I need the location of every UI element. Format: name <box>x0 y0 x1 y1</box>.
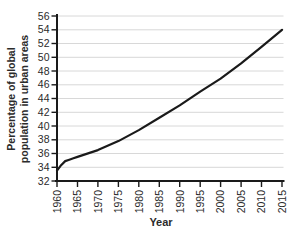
y-tick-label: 42 <box>38 106 50 118</box>
y-tick-label: 32 <box>38 175 50 187</box>
y-tick-label: 48 <box>38 65 50 77</box>
y-tick-label: 44 <box>38 92 50 104</box>
x-tick-label: 1975 <box>112 190 124 214</box>
y-tick-label: 50 <box>38 51 50 63</box>
x-tick-label: 1980 <box>133 190 145 214</box>
y-tick-label: 38 <box>38 133 50 145</box>
x-tick-label: 1970 <box>92 190 104 214</box>
urbanization-line-chart: 3234363840424446485052545619601965197019… <box>0 0 287 235</box>
x-tick-label: 1990 <box>174 190 186 214</box>
data-line <box>57 30 282 171</box>
x-tick-label: 2015 <box>276 190 287 214</box>
x-tick-label: 1960 <box>51 190 63 214</box>
y-tick-label: 56 <box>38 10 50 22</box>
y-tick-label: 46 <box>38 78 50 90</box>
y-tick-label: 36 <box>38 147 50 159</box>
x-axis-title: Year <box>46 216 276 228</box>
y-tick-label: 52 <box>38 37 50 49</box>
x-tick-label: 2000 <box>214 190 226 214</box>
y-tick-label: 34 <box>38 161 50 173</box>
x-tick-label: 2005 <box>235 190 247 214</box>
x-tick-label: 1965 <box>71 190 83 214</box>
chart-figure: 3234363840424446485052545619601965197019… <box>0 0 287 235</box>
x-tick-label: 1995 <box>194 190 206 214</box>
y-tick-label: 54 <box>38 23 50 35</box>
x-tick-label: 1985 <box>153 190 165 214</box>
y-tick-label: 40 <box>38 120 50 132</box>
x-tick-label: 2010 <box>255 190 267 214</box>
